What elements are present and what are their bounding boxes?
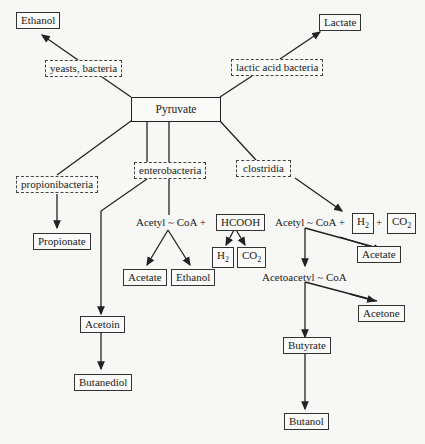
acetoacetyl-coa: Acetoacetyl ~ CoA [262,271,347,283]
product-acetone: Acetone [358,305,405,322]
product-propionate: Propionate [33,233,91,250]
organism-yeasts-bacteria: yeasts, bacteria [45,60,122,77]
organism-clostridia: clostridia [236,160,291,177]
organism-lactic-acid-bacteria: lactic acid bacteria [231,59,323,76]
product-ethanol-top: Ethanol [16,12,60,29]
product-acetoin: Acetoin [80,316,125,333]
product-butanol: Butanol [284,413,329,430]
product-h2-entero: H2 [212,247,234,268]
node-pyruvate: Pyruvate [131,97,221,122]
product-co2-clos: CO2 [387,213,416,234]
product-acetate-entero: Acetate [123,269,167,286]
product-butanediol: Butanediol [74,374,132,391]
plus-sign: + [376,216,382,228]
acetyl-coa-entero: Acetyl ~ CoA + [136,216,206,228]
product-lactate: Lactate [319,14,361,31]
product-co2-entero: CO2 [237,247,266,268]
product-ethanol-entero: Ethanol [171,269,215,286]
node-hcooh: HCOOH [216,214,265,231]
acetyl-coa-clos: Acetyl ~ CoA + [275,216,345,228]
product-butyrate: Butyrate [283,337,331,354]
organism-enterobacteria: enterobacteria [134,162,206,179]
product-acetate-clos: Acetate [357,246,401,263]
product-h2-clos: H2 [352,213,374,234]
organism-propionibacteria: propionibacteria [16,176,98,193]
